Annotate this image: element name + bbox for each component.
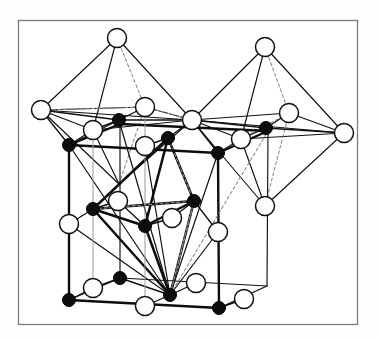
anion-sphere (109, 192, 128, 211)
cation-sphere (87, 203, 100, 216)
anion-sphere (136, 297, 155, 316)
cation-sphere (139, 220, 152, 233)
anion-sphere (209, 223, 228, 242)
cation-sphere (164, 289, 177, 302)
anion-sphere (183, 111, 202, 130)
anion-sphere (163, 209, 182, 228)
cation-sphere (114, 272, 127, 285)
anion-sphere (136, 98, 155, 117)
cation-sphere (113, 114, 126, 127)
cation-sphere (260, 122, 273, 135)
anion-sphere (235, 290, 254, 309)
cation-sphere (212, 147, 225, 160)
anion-sphere (256, 38, 275, 57)
anion-sphere (232, 130, 251, 149)
anion-sphere (256, 197, 275, 216)
cation-sphere (63, 139, 76, 152)
anion-sphere (32, 101, 51, 120)
crystal-structure-diagram (0, 0, 379, 339)
cation-sphere (63, 294, 76, 307)
cation-sphere (188, 195, 201, 208)
anion-sphere (60, 215, 79, 234)
cation-sphere (213, 302, 226, 315)
cation-sphere (162, 132, 175, 145)
anion-sphere (280, 104, 299, 123)
anion-sphere (84, 279, 103, 298)
figure-root (0, 0, 379, 339)
anion-sphere (108, 29, 127, 48)
anion-sphere (84, 121, 103, 140)
anion-sphere (187, 274, 206, 293)
anion-sphere (335, 124, 354, 143)
anion-sphere (136, 137, 155, 156)
